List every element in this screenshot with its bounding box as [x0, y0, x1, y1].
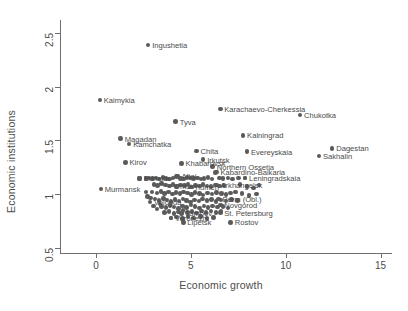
data-point-labeled: [330, 146, 335, 151]
point-label: Chukotka: [304, 111, 336, 120]
y-axis-title: Economic institutions: [0, 0, 22, 311]
x-axis-line: [60, 253, 392, 254]
data-point-labeled: [98, 98, 103, 103]
data-point: [167, 209, 172, 214]
data-point-labeled: [146, 43, 151, 48]
data-point-labeled: [216, 197, 221, 202]
data-point-labeled: [218, 107, 223, 112]
data-point-labeled: [245, 149, 250, 154]
point-label: St. Petersburg: [224, 208, 273, 217]
point-label: Rostov: [235, 218, 259, 227]
point-label: Sakhalin: [323, 151, 352, 160]
point-label: Karachaevo-Cherkessia: [224, 105, 305, 114]
data-point-labeled: [118, 136, 123, 141]
point-label: Altai: [182, 172, 197, 181]
y-tick-mark: [55, 87, 60, 88]
point-label: Lipetsk: [187, 218, 211, 227]
x-tick-mark: [286, 253, 287, 258]
y-tick-label-text: 2: [45, 87, 56, 93]
point-label: Arkhangelsk: [221, 180, 263, 189]
x-axis-title: Economic growth: [0, 279, 408, 291]
point-label: Kalmykia: [104, 96, 135, 105]
x-tick-mark: [96, 253, 97, 258]
y-tick-mark: [55, 140, 60, 141]
point-label: Vologda: [154, 198, 181, 207]
x-tick-mark: [381, 253, 382, 258]
data-point-labeled: [228, 220, 233, 225]
y-tick-label-text: 1.5: [45, 140, 56, 154]
data-point-labeled: [194, 149, 199, 154]
point-label: Kirov: [130, 158, 147, 167]
y-tick-label-text: 1: [45, 194, 56, 200]
data-point-labeled: [169, 216, 174, 221]
data-point-labeled: [168, 184, 173, 189]
x-tick-label: 15: [375, 260, 386, 271]
point-label: Kamchatka: [133, 140, 171, 149]
y-axis-line: [60, 20, 61, 253]
data-point-labeled: [137, 176, 142, 181]
y-tick-mark: [55, 194, 60, 195]
data-point: [162, 210, 167, 215]
point-label: Murmansk: [105, 185, 140, 194]
data-point-labeled: [218, 210, 223, 215]
x-tick-label: 0: [93, 260, 99, 271]
point-label: Evereyskaia: [251, 147, 292, 156]
point-label: Tyva: [180, 117, 196, 126]
point-label: Ingushetia: [152, 41, 187, 50]
x-axis-title-text: Economic growth: [179, 279, 263, 291]
x-tick-label: 5: [188, 260, 194, 271]
plot-area: 0.511.522.5 051015 IngushetiaKalmykiaKar…: [60, 20, 392, 253]
y-tick-mark: [55, 248, 60, 249]
data-point-labeled: [173, 119, 178, 124]
x-tick-label: 10: [280, 260, 291, 271]
x-tick-mark: [191, 253, 192, 258]
data-point-labeled: [241, 133, 246, 138]
data-point: [150, 190, 155, 195]
y-tick-label-text: 0.5: [45, 248, 56, 262]
data-point-labeled: [317, 154, 322, 159]
point-label: Omsk: [174, 181, 194, 190]
point-label: Buriatia: [144, 174, 170, 183]
y-tick-label-text: 2.5: [45, 33, 56, 47]
data-point-labeled: [179, 161, 184, 166]
data-point: [155, 207, 160, 212]
data-point-labeled: [218, 203, 223, 208]
y-tick-mark: [55, 33, 60, 34]
data-point: [210, 177, 215, 182]
data-point-labeled: [123, 160, 128, 165]
point-label: Tiumen: [194, 183, 219, 192]
data-point-labeled: [99, 187, 104, 192]
data-point: [209, 197, 214, 202]
point-label: Kalningrad: [247, 131, 283, 140]
scatter-plot-figure: Economic institutions 0.511.522.5 051015…: [0, 0, 408, 311]
y-axis-title-text: Economic institutions: [5, 110, 17, 213]
